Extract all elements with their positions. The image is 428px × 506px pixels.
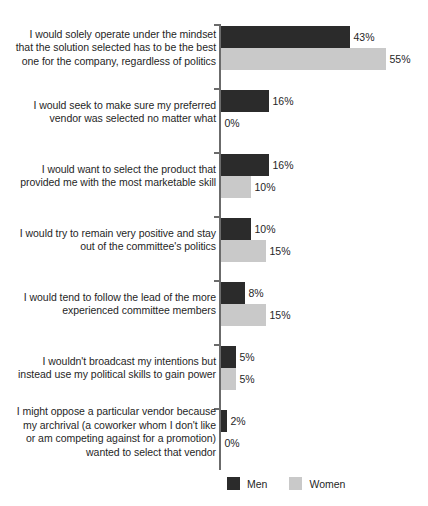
legend-label-men: Men bbox=[247, 478, 267, 490]
category-label: I would solely operate under the mindset… bbox=[4, 28, 216, 69]
legend-swatch-men-icon bbox=[227, 477, 240, 490]
bar-women bbox=[221, 304, 266, 326]
category-group: I would solely operate under the mindset… bbox=[0, 26, 428, 70]
category-label: I would tend to follow the lead of the m… bbox=[4, 291, 216, 318]
grouped-bar-chart: I would solely operate under the mindset… bbox=[0, 0, 428, 506]
category-group: I would tend to follow the lead of the m… bbox=[0, 282, 428, 326]
category-group: I would try to remain very positive and … bbox=[0, 218, 428, 262]
bar-men bbox=[221, 26, 350, 48]
bar-women bbox=[221, 240, 266, 262]
bar-men bbox=[221, 346, 236, 368]
category-label: I would want to select the product that … bbox=[4, 163, 216, 190]
legend-item-men: Men bbox=[227, 477, 267, 490]
bar-value-label: 15% bbox=[266, 304, 291, 326]
legend-item-women: Women bbox=[289, 477, 345, 490]
category-label: I wouldn't broadcast my intentions but i… bbox=[4, 355, 216, 382]
bar-women bbox=[221, 368, 236, 390]
bar-value-label: 8% bbox=[245, 282, 264, 304]
category-group: I would want to select the product that … bbox=[0, 154, 428, 198]
bar-value-label: 0% bbox=[221, 432, 240, 454]
bar-men bbox=[221, 154, 269, 176]
bar-value-label: 5% bbox=[236, 346, 255, 368]
category-label: I would seek to make sure my preferred v… bbox=[4, 99, 216, 126]
category-label: I might oppose a particular vendor becau… bbox=[4, 405, 216, 459]
bar-women bbox=[221, 176, 251, 198]
bar-men bbox=[221, 218, 251, 240]
bar-value-label: 10% bbox=[251, 176, 276, 198]
bar-women bbox=[221, 48, 386, 70]
bar-value-label: 16% bbox=[269, 154, 294, 176]
bar-value-label: 43% bbox=[350, 26, 375, 48]
legend-label-women: Women bbox=[309, 478, 345, 490]
bar-value-label: 15% bbox=[266, 240, 291, 262]
bar-value-label: 2% bbox=[227, 410, 246, 432]
bar-value-label: 16% bbox=[269, 90, 294, 112]
legend-swatch-women-icon bbox=[289, 477, 302, 490]
chart-legend: Men Women bbox=[227, 477, 345, 490]
category-group: I would seek to make sure my preferred v… bbox=[0, 90, 428, 134]
bar-men bbox=[221, 90, 269, 112]
bar-value-label: 10% bbox=[251, 218, 276, 240]
bar-value-label: 0% bbox=[221, 112, 240, 134]
bar-value-label: 55% bbox=[386, 48, 411, 70]
bar-value-label: 5% bbox=[236, 368, 255, 390]
category-group: I might oppose a particular vendor becau… bbox=[0, 410, 428, 454]
category-label: I would try to remain very positive and … bbox=[4, 227, 216, 254]
bar-men bbox=[221, 282, 245, 304]
category-group: I wouldn't broadcast my intentions but i… bbox=[0, 346, 428, 390]
